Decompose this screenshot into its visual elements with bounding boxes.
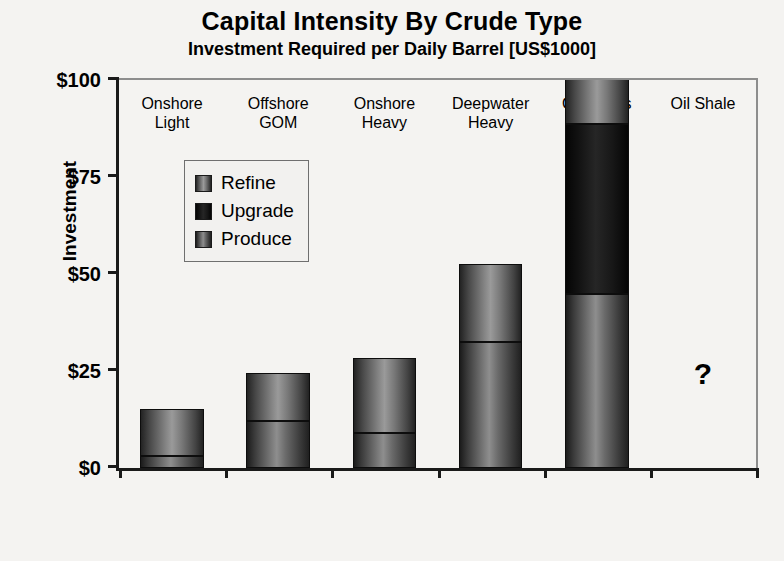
bar-segment-produce[interactable] <box>459 342 523 468</box>
bar-segment-refine[interactable] <box>246 373 310 421</box>
chart-container: Capital Intensity By Crude Type Investme… <box>0 0 784 561</box>
legend-item-label: Upgrade <box>221 201 294 221</box>
chart-title-block: Capital Intensity By Crude Type Investme… <box>0 6 784 60</box>
y-axis-title: Investment <box>59 101 81 321</box>
x-axis-tick <box>119 468 122 478</box>
y-axis-tick: $50 <box>108 271 119 274</box>
y-axis-tick-label: $100 <box>57 70 102 90</box>
bar-segment-refine[interactable] <box>140 409 204 457</box>
x-axis-tick <box>225 468 228 478</box>
bar-segment-produce[interactable] <box>246 421 310 468</box>
plot-area: $0$25$50$75$100Onshore LightOffshore GOM… <box>116 78 758 471</box>
y-axis-tick-label: $75 <box>68 167 101 187</box>
x-axis-category-label: Oil Shale <box>650 94 756 113</box>
x-axis-tick <box>756 468 759 478</box>
bar-stack[interactable] <box>140 80 204 468</box>
bar-segment-produce[interactable] <box>565 294 629 468</box>
chart-title: Capital Intensity By Crude Type <box>0 6 784 36</box>
chart-subtitle: Investment Required per Daily Barrel [US… <box>0 38 784 60</box>
bar-stack[interactable] <box>459 80 523 468</box>
legend-item[interactable]: Produce <box>195 225 294 253</box>
legend-swatch-icon <box>195 203 212 220</box>
y-axis-tick-label: $0 <box>79 458 101 478</box>
plot-inner: $0$25$50$75$100Onshore LightOffshore GOM… <box>119 80 756 468</box>
y-axis-tick: $0 <box>108 465 119 468</box>
y-axis-tick: $100 <box>108 77 119 80</box>
bar-segment-produce[interactable] <box>140 456 204 468</box>
bar-segment-refine[interactable] <box>565 80 629 124</box>
legend-item[interactable]: Refine <box>195 169 294 197</box>
bar-segment-produce[interactable] <box>353 433 417 468</box>
legend-item-label: Refine <box>221 173 276 193</box>
x-axis-tick <box>438 468 441 478</box>
x-axis-tick <box>331 468 334 478</box>
bar-segment-refine[interactable] <box>459 264 523 342</box>
bar-segment-upgrade[interactable] <box>565 124 629 294</box>
x-axis-tick <box>650 468 653 478</box>
bar-stack[interactable] <box>246 80 310 468</box>
legend-item-label: Produce <box>221 229 292 249</box>
legend-item[interactable]: Upgrade <box>195 197 294 225</box>
y-axis-tick: $75 <box>108 174 119 177</box>
y-axis-tick-label: $50 <box>68 264 101 284</box>
y-axis-tick-label: $25 <box>68 361 101 381</box>
legend-swatch-icon <box>195 231 212 248</box>
chart-legend: RefineUpgradeProduce <box>184 160 309 262</box>
bar-stack[interactable] <box>565 80 629 468</box>
y-axis-tick: $25 <box>108 368 119 371</box>
unknown-value-marker: ? <box>694 359 712 389</box>
legend-swatch-icon <box>195 175 212 192</box>
x-axis-tick <box>544 468 547 478</box>
bar-segment-refine[interactable] <box>353 358 417 434</box>
bar-stack[interactable] <box>353 80 417 468</box>
